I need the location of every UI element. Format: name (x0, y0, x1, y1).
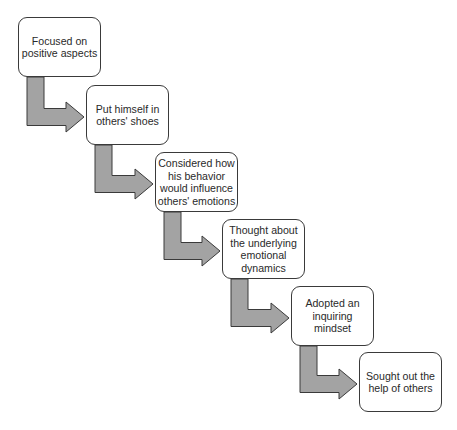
bent-arrow-icon (95, 145, 153, 199)
step-label-2: Put himself in others' shoes (88, 103, 167, 128)
staircase-diagram: Focused on positive aspects Put himself … (0, 0, 457, 430)
step-box-3: Considered how his behavior would influe… (155, 152, 238, 212)
step-box-2: Put himself in others' shoes (86, 85, 169, 145)
step-box-1: Focused on positive aspects (18, 17, 101, 77)
step-label-3: Considered how his behavior would influe… (157, 157, 236, 207)
step-box-6: Sought out the help of others (359, 352, 442, 412)
step-box-5: Adopted an inquiring mindset (291, 286, 374, 346)
step-label-6: Sought out the help of others (361, 370, 440, 395)
step-box-4: Thought about the underlying emotional d… (222, 219, 305, 279)
bent-arrow-icon (300, 346, 357, 399)
bent-arrow-icon (27, 77, 84, 132)
step-label-4: Thought about the underlying emotional d… (224, 224, 303, 274)
bent-arrow-icon (231, 279, 289, 333)
bent-arrow-icon (164, 212, 220, 266)
step-label-5: Adopted an inquiring mindset (293, 297, 372, 335)
step-label-1: Focused on positive aspects (20, 35, 99, 60)
